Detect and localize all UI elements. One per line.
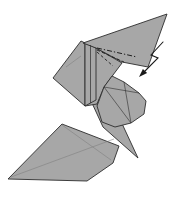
origami-diagram-svg: [0, 0, 175, 197]
left-wing-flap: [53, 41, 85, 106]
origami-step-figure: [0, 0, 175, 197]
base-diamond-flap: [8, 124, 119, 181]
